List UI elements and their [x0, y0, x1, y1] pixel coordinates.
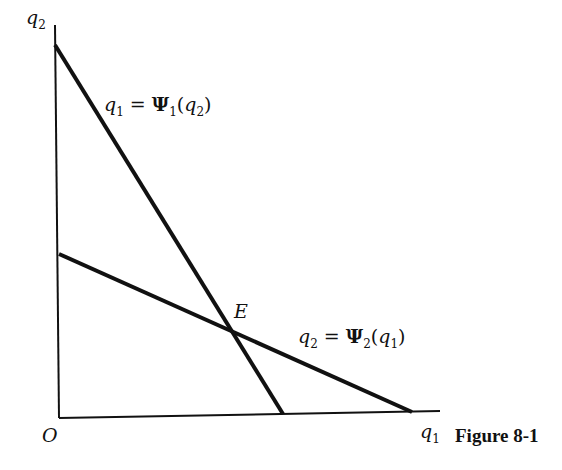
- y-axis-label: q2: [26, 6, 46, 32]
- x-axis: [59, 411, 440, 418]
- figure-caption: Figure 8-1: [455, 425, 539, 447]
- y-axis: [55, 25, 59, 418]
- curve-1-label: q1 = Ψ1(q2): [104, 93, 211, 119]
- x-axis-label: q1: [420, 420, 440, 446]
- diagram-canvas: [0, 0, 562, 470]
- equilibrium-label: E: [234, 300, 248, 322]
- curve-2-label: q2 = Ψ2(q1): [298, 325, 405, 351]
- origin-label: O: [42, 424, 58, 446]
